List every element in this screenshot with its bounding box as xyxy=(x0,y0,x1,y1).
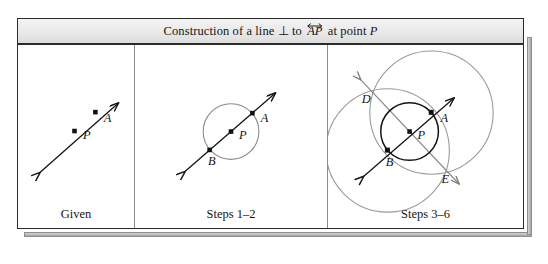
point-p-marker xyxy=(229,129,234,134)
panel-steps36-caption: Steps 3–6 xyxy=(328,208,523,221)
point-b-label: B xyxy=(208,154,216,168)
point-a-label: A xyxy=(103,111,112,125)
panel-steps12-drawing: P A B xyxy=(135,45,327,228)
title-suffix: at point xyxy=(325,24,370,38)
point-a-label: A xyxy=(439,111,448,125)
point-p-label: P xyxy=(417,128,426,142)
point-p-label: P xyxy=(82,128,91,142)
panel-given-drawing: P A xyxy=(18,45,134,228)
title-point-label: P xyxy=(370,24,378,38)
panel-steps12-caption: Steps 1–2 xyxy=(135,208,327,221)
figure-shadow-bottom xyxy=(24,232,532,237)
panel-steps12: P A B Steps 1–2 xyxy=(135,45,328,228)
title-prefix: Construction of a line xyxy=(164,24,278,38)
point-e-label: E xyxy=(440,172,449,186)
point-d-label: D xyxy=(361,92,371,106)
figure-title: Construction of a line ⊥ to AP at point … xyxy=(164,25,378,38)
point-b-label: B xyxy=(386,155,394,169)
point-a-marker xyxy=(93,110,98,115)
segment-label: AP xyxy=(307,24,322,38)
point-a-marker xyxy=(250,111,255,116)
point-p-marker xyxy=(407,129,412,134)
panel-steps36: P A B D E Steps 3–6 xyxy=(328,45,523,228)
panel-steps36-drawing: P A B D E xyxy=(328,45,523,228)
perpendicular-symbol: ⊥ xyxy=(278,24,289,38)
figure-shadow-right xyxy=(527,37,532,235)
panels-container: P A Given P xyxy=(17,44,524,229)
point-p-marker xyxy=(72,129,77,134)
point-p-label: P xyxy=(238,128,247,142)
point-b-marker xyxy=(385,148,390,153)
panel-given: P A Given xyxy=(18,45,135,228)
panel-given-caption: Given xyxy=(18,208,134,221)
segment-ap-with-arrow: AP xyxy=(306,25,323,38)
point-a-marker xyxy=(429,110,434,115)
construction-figure: Construction of a line ⊥ to AP at point … xyxy=(0,0,548,264)
title-middle: to xyxy=(289,24,305,38)
figure-title-bar: Construction of a line ⊥ to AP at point … xyxy=(17,18,524,44)
point-a-label: A xyxy=(260,111,269,125)
point-b-marker xyxy=(207,148,212,153)
